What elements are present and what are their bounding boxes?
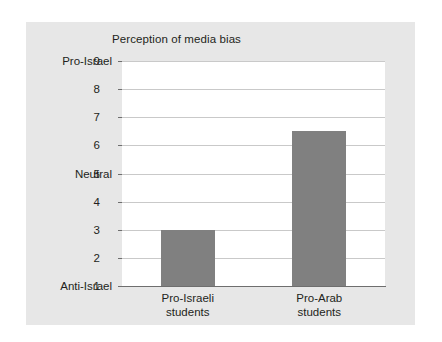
x-axis-category-label-line: Pro-Israeli [162, 292, 214, 306]
y-axis-tick-label: 5 [86, 168, 100, 180]
gridline [122, 61, 385, 62]
tickmark [118, 89, 122, 90]
x-axis-category-label-line: Pro-Arab [296, 292, 342, 306]
gridline [122, 89, 385, 90]
y-axis-tick-label: 4 [86, 196, 100, 208]
tickmark [118, 117, 122, 118]
x-axis-category-label-line: students [296, 306, 342, 320]
chart-figure: Perception of media bias Pro-IsraelNeutr… [26, 22, 415, 325]
y-axis-tick-label: 9 [86, 55, 100, 67]
y-axis-tick-label: 7 [86, 111, 100, 123]
tickmark [118, 61, 122, 62]
tickmark [118, 258, 122, 259]
x-axis-category-label-line: students [162, 306, 214, 320]
y-axis-tick-label: 2 [86, 252, 100, 264]
y-axis-tick-label: 6 [86, 139, 100, 151]
plot-area [122, 61, 385, 286]
tickmark [118, 202, 122, 203]
bar [161, 230, 215, 286]
y-axis-tick-label: 1 [86, 280, 100, 292]
gridline [122, 117, 385, 118]
x-axis-category-label: Pro-Israelistudents [162, 292, 214, 319]
x-axis-category-label: Pro-Arabstudents [296, 292, 342, 319]
tickmark [118, 286, 122, 287]
tickmark [118, 174, 122, 175]
tickmark [118, 145, 122, 146]
bar [292, 131, 346, 286]
y-axis-tick-label: 8 [86, 83, 100, 95]
x-axis-line [122, 286, 386, 287]
y-axis-tick-label: 3 [86, 224, 100, 236]
chart-title: Perception of media bias [112, 33, 241, 45]
tickmark [118, 230, 122, 231]
